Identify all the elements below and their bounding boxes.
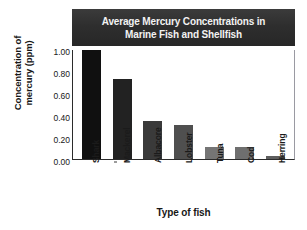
x-label-slot: Herring — [261, 161, 292, 206]
bar-slot — [230, 50, 261, 159]
x-axis-title: Type of fish — [72, 207, 295, 218]
x-tick-label-albacore: Albacore — [153, 127, 163, 163]
y-tick-label: 0.20 — [44, 135, 70, 145]
x-tick-label-tuna: Tuna — [215, 144, 225, 163]
x-label-slot: Lobster — [168, 161, 199, 206]
x-axis-tick-labels: SharkMackerelAlbacoreLobsterTunaCodHerri… — [72, 161, 295, 206]
x-tick-label-mackerel: Mackerel — [122, 127, 132, 163]
chart-title-banner: Average Mercury Concentrations in Marine… — [72, 9, 295, 46]
bar-slot — [199, 50, 230, 159]
chart-title-line-1: Average Mercury Concentrations in — [102, 15, 266, 28]
x-label-slot: Shark — [75, 161, 106, 206]
x-label-slot: Mackerel — [106, 161, 137, 206]
y-tick-label: 0.60 — [44, 91, 70, 101]
y-tick-label: 0.40 — [44, 113, 70, 123]
x-tick-label-lobster: Lobster — [184, 133, 194, 163]
y-axis-title-line-2: mercury (ppm) — [23, 40, 35, 105]
x-label-slot: Cod — [230, 161, 261, 206]
y-axis-title: Concentration of mercury (ppm) — [3, 12, 43, 134]
y-tick-label: 0.00 — [44, 157, 70, 167]
y-axis-title-line-1: Concentration of — [12, 36, 24, 110]
y-axis-tick-labels: 0.000.200.400.600.801.00 — [44, 52, 70, 160]
y-tick-label: 1.00 — [44, 47, 70, 57]
mercury-bar-chart-figure: Concentration of mercury (ppm) 0.000.200… — [0, 0, 307, 230]
x-tick-label-shark: Shark — [91, 140, 101, 163]
x-tick-label-herring: Herring — [277, 133, 287, 163]
x-tick-label-cod: Cod — [246, 147, 256, 163]
y-tick-label: 0.80 — [44, 69, 70, 79]
chart-title-line-2: Marine Fish and Shellfish — [125, 28, 242, 41]
x-label-slot: Albacore — [137, 161, 168, 206]
x-label-slot: Tuna — [199, 161, 230, 206]
